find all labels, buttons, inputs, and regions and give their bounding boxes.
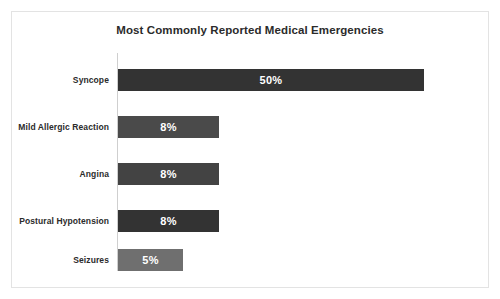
bar-row: Postural Hypotension 8%: [12, 210, 490, 232]
category-label-postural-hypotension: Postural Hypotension: [0, 216, 109, 226]
bar-rows: Syncope 50% Mild Allergic Reaction 8% An…: [12, 53, 490, 281]
bar-syncope[interactable]: 50%: [118, 69, 424, 91]
category-label-syncope: Syncope: [0, 75, 109, 85]
bar-angina[interactable]: 8%: [118, 163, 219, 185]
category-label-seizures: Seizures: [0, 255, 109, 265]
bar-row: Mild Allergic Reaction 8%: [12, 116, 490, 138]
chart-title: Most Commonly Reported Medical Emergenci…: [12, 24, 488, 36]
category-label-mild-allergic-reaction: Mild Allergic Reaction: [0, 122, 109, 132]
bar-postural-hypotension[interactable]: 8%: [118, 210, 219, 232]
bar-mild-allergic-reaction[interactable]: 8%: [118, 116, 219, 138]
bar-value-label: 8%: [160, 215, 177, 227]
plot-area: Syncope 50% Mild Allergic Reaction 8% An…: [12, 53, 490, 281]
category-label-angina: Angina: [0, 169, 109, 179]
chart-frame: Most Commonly Reported Medical Emergenci…: [11, 11, 489, 288]
bar-value-label: 5%: [142, 254, 159, 266]
bar-value-label: 50%: [260, 74, 283, 86]
bar-value-label: 8%: [160, 121, 177, 133]
bar-row: Angina 8%: [12, 163, 490, 185]
bar-seizures[interactable]: 5%: [118, 249, 183, 271]
bar-row: Syncope 50%: [12, 69, 490, 91]
bar-row: Seizures 5%: [12, 249, 490, 271]
bar-value-label: 8%: [160, 168, 177, 180]
